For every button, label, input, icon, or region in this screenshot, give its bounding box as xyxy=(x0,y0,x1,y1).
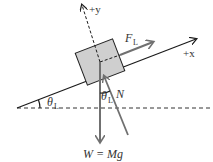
incline-angle-arc xyxy=(39,100,41,108)
incline-diagram: +y +x F L N θ L θ L W = Mg xyxy=(0,0,213,162)
lift-force-label: F xyxy=(124,31,133,45)
normal-force-arrow xyxy=(104,76,128,135)
incline-angle-label: θ xyxy=(47,95,53,109)
normal-angle-subscript: L xyxy=(108,96,113,105)
weight-label: W = Mg xyxy=(83,147,123,161)
normal-force-label: N xyxy=(115,87,125,101)
lift-force-subscript: L xyxy=(133,38,138,47)
incline-angle-subscript: L xyxy=(54,102,59,111)
y-axis-label: +y xyxy=(89,3,101,15)
x-axis-label: +x xyxy=(183,47,195,59)
normal-angle-label: θ xyxy=(101,89,107,103)
